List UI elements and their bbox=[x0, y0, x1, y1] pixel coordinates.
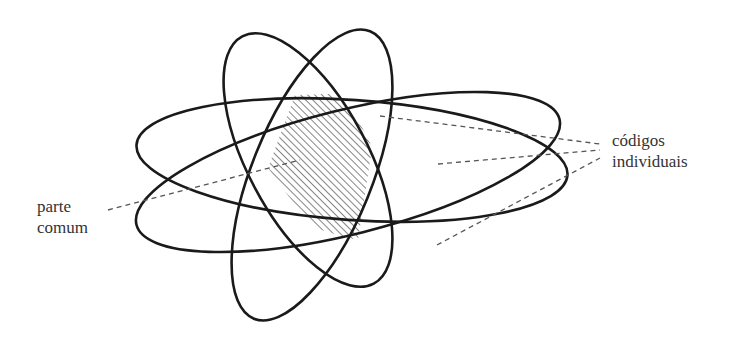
label-individual-line-2: individuais bbox=[612, 151, 688, 172]
leader-individual-2 bbox=[438, 150, 600, 164]
label-common-line-2: comum bbox=[37, 217, 88, 238]
label-individual-codes: códigos individuais bbox=[612, 130, 688, 172]
label-common-line-1: parte bbox=[37, 196, 88, 217]
label-common-part: parte comum bbox=[37, 196, 88, 238]
overlap-diagram bbox=[0, 0, 734, 353]
label-individual-line-1: códigos bbox=[612, 130, 688, 151]
leader-individual-1 bbox=[380, 116, 600, 144]
